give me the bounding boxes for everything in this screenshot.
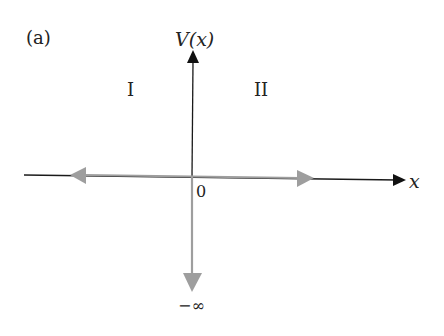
potential-diagram: (a) V(x) I II x 0 −∞ — [0, 0, 444, 336]
gray-left-arrowhead-icon — [70, 167, 86, 184]
panel-label: (a) — [26, 27, 51, 48]
region-label-II: II — [254, 79, 268, 100]
x-axis-label: x — [409, 170, 420, 192]
y-axis-line — [192, 62, 193, 176]
y-axis-arrowhead-icon — [187, 50, 199, 63]
negative-infinity-label: −∞ — [178, 296, 205, 315]
origin-label: 0 — [196, 182, 206, 201]
y-axis-label: V(x) — [175, 28, 214, 50]
gray-down-arrowhead-icon — [183, 273, 202, 292]
x-axis-arrowhead-icon — [393, 174, 406, 186]
region-label-I: I — [127, 79, 134, 100]
gray-right-arrowhead-icon — [297, 170, 314, 187]
